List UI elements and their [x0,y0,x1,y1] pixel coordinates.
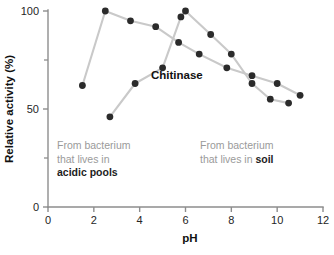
data-point [182,8,189,15]
series-0 [79,8,304,99]
data-point [178,14,185,21]
data-point [249,72,256,79]
y-tick-label: 0 [33,201,39,213]
data-point [175,39,182,46]
axis-ticks [43,11,323,212]
data-point [107,113,114,120]
x-tick-label: 2 [91,214,97,226]
series-line [110,11,289,117]
data-series [79,8,304,121]
data-point [297,92,304,99]
data-point [102,8,109,15]
chart-figure: 024681012050100 pH Relative activity (%)… [0,0,334,255]
data-point [274,80,281,87]
x-tick-label: 12 [317,214,329,226]
x-tick-label: 0 [45,214,51,226]
series-line [82,11,300,95]
data-point [196,51,203,58]
x-tick-label: 10 [271,214,283,226]
data-point [249,80,256,87]
x-tick-label: 8 [228,214,234,226]
data-point [223,64,230,71]
data-point [132,80,139,87]
data-point [228,51,235,58]
data-point [267,96,274,103]
data-point [285,100,292,107]
enzyme-name-label: Chitinase [151,69,203,81]
x-tick-label: 6 [182,214,188,226]
chart-plot-area: 024681012050100 pH Relative activity (%)… [0,0,334,255]
y-tick-label: 50 [27,103,39,115]
data-point [79,82,86,89]
data-point [127,17,134,24]
series-1 [107,8,293,121]
annotation-acidic-pools: From bacteriumthat lives inacidic pools [57,139,131,180]
y-tick-label: 100 [21,5,39,17]
axis-tick-labels: 024681012050100 [21,5,329,226]
annotation-soil: From bacteriumthat lives in soil [200,139,274,166]
data-point [207,31,214,38]
data-point [152,23,159,30]
x-tick-label: 4 [137,214,143,226]
x-axis-title: pH [182,232,197,244]
y-axis-title: Relative activity (%) [3,55,15,163]
